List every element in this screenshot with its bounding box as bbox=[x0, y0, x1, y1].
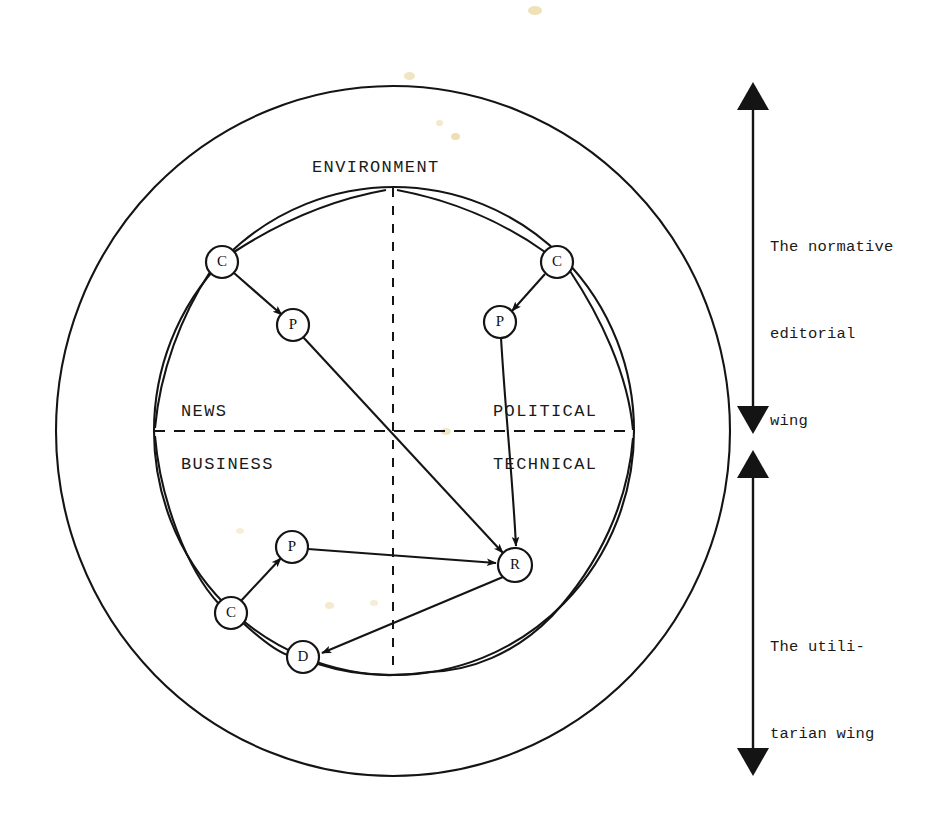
edge-c-to-p-topleft bbox=[234, 273, 282, 315]
environment-label: ENVIRONMENT bbox=[312, 158, 440, 177]
node-label: C bbox=[217, 253, 227, 269]
node-c-top-left[interactable]: C bbox=[206, 246, 238, 278]
node-p-top-right[interactable]: P bbox=[484, 306, 516, 338]
node-label: P bbox=[288, 538, 296, 554]
edge-c-to-p-topright bbox=[512, 274, 545, 311]
quadrant-label-technical: TECHNICAL bbox=[493, 455, 597, 474]
node-label: P bbox=[496, 313, 504, 329]
node-label: D bbox=[298, 648, 309, 664]
normative-arrowhead-down bbox=[737, 406, 769, 434]
diagram-figure: C P C P P C bbox=[0, 0, 949, 830]
utilitarian-arrowhead-down bbox=[737, 748, 769, 776]
arc-c-topleft-to-ring bbox=[234, 190, 386, 252]
edge-p-to-r-topright bbox=[501, 338, 516, 546]
utilitarian-arrowhead-up bbox=[737, 450, 769, 478]
node-r[interactable]: R bbox=[498, 548, 532, 582]
utilitarian-wing-label: The utili- tarian wing bbox=[770, 575, 875, 807]
normative-arrowhead-up bbox=[737, 82, 769, 110]
utilitarian-wing-line-2: tarian wing bbox=[770, 720, 875, 749]
node-label: C bbox=[552, 253, 562, 269]
normative-wing-line-3: wing bbox=[770, 407, 894, 436]
quadrant-label-business: BUSINESS bbox=[181, 455, 274, 474]
node-c-bottom-left[interactable]: C bbox=[215, 597, 247, 629]
edge-c-to-d-arc bbox=[243, 623, 288, 655]
node-p-top-left[interactable]: P bbox=[277, 309, 309, 341]
normative-wing-line-2: editorial bbox=[770, 320, 894, 349]
quadrant-label-news: NEWS bbox=[181, 402, 227, 421]
node-label: R bbox=[510, 556, 520, 572]
node-c-top-right[interactable]: C bbox=[541, 246, 573, 278]
node-p-bottom-left[interactable]: P bbox=[276, 531, 308, 563]
node-label: C bbox=[226, 604, 236, 620]
edge-p-to-r-bottomleft bbox=[308, 549, 496, 563]
node-label: P bbox=[289, 316, 297, 332]
utilitarian-wing-line-1: The utili- bbox=[770, 633, 875, 662]
node-d-bottom[interactable]: D bbox=[287, 641, 319, 673]
edge-p-to-r-topleft bbox=[303, 337, 503, 553]
edge-r-to-d bbox=[322, 577, 503, 653]
normative-wing-line-1: The normative bbox=[770, 233, 894, 262]
normative-wing-label: The normative editorial wing bbox=[770, 175, 894, 494]
quadrant-label-political: POLITICAL bbox=[493, 402, 597, 421]
edge-c-to-p-bottomleft bbox=[240, 558, 281, 602]
